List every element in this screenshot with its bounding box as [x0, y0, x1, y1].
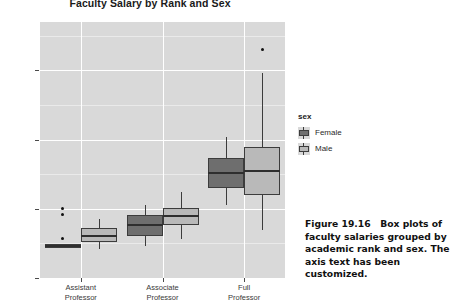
xtick-label-line2: Professor	[128, 293, 198, 302]
boxplot-outlier	[61, 207, 64, 210]
boxplot-median	[244, 170, 280, 172]
boxplot-key-icon	[298, 127, 310, 139]
xtick-label: AssistantProfessor	[46, 283, 116, 302]
legend-items: FemaleMale	[298, 125, 393, 156]
boxplot-median	[208, 172, 244, 174]
boxplot-outlier	[61, 213, 64, 216]
plot-panel	[40, 22, 285, 278]
figure-root: Faculty Salary by Rank and Sex $50K$100K…	[0, 0, 469, 302]
legend-title: sex	[298, 112, 393, 121]
boxplot-median	[45, 245, 81, 247]
boxplot-median	[127, 224, 163, 226]
xtick-label: FullProfessor	[209, 283, 279, 302]
legend-key-whisker-bottom	[303, 136, 304, 139]
legend-label: Female	[315, 128, 342, 137]
xtick-mark	[81, 278, 82, 282]
legend-key-box	[299, 130, 309, 136]
xtick-label-line2: Professor	[209, 293, 279, 302]
xtick-mark	[163, 278, 164, 282]
legend-item-male[interactable]: Male	[298, 141, 393, 156]
ytick-mark	[35, 209, 39, 210]
xtick-label-line1: Full	[209, 283, 279, 293]
ytick-mark	[35, 70, 39, 71]
xtick-label-line1: Associate	[128, 283, 198, 293]
boxplot-median	[81, 235, 117, 237]
figure-caption: Figure 19.16 Box plots of faculty salari…	[305, 218, 463, 281]
legend-item-female[interactable]: Female	[298, 125, 393, 140]
xtick-label-line2: Professor	[46, 293, 116, 302]
ytick-mark	[35, 140, 39, 141]
xtick-label: AssociateProfessor	[128, 283, 198, 302]
gridline-x-1	[163, 22, 164, 278]
xtick-mark	[244, 278, 245, 282]
xtick-label-line1: Assistant	[46, 283, 116, 293]
chart-title: Faculty Salary by Rank and Sex	[0, 0, 300, 9]
legend-label: Male	[315, 144, 332, 153]
legend-key-box	[299, 146, 309, 152]
ytick-mark	[35, 278, 39, 279]
boxplot-key-icon	[298, 143, 310, 155]
caption-label: Figure 19.16	[305, 218, 371, 229]
boxplot-median	[163, 215, 199, 217]
chart-area: Faculty Salary by Rank and Sex $50K$100K…	[0, 0, 300, 302]
legend-key-whisker-bottom	[303, 152, 304, 155]
legend: sex FemaleMale	[298, 112, 393, 157]
boxplot-outlier	[61, 237, 64, 240]
boxplot-outlier	[261, 48, 264, 51]
